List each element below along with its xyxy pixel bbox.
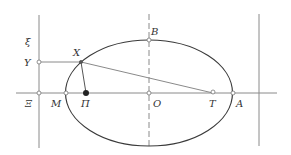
label-Pi: Π — [80, 98, 90, 109]
point-T — [211, 90, 215, 94]
label-X: Χ — [72, 47, 81, 58]
segment-XPi — [81, 62, 86, 93]
label-Xi: Ξ — [24, 98, 33, 109]
label-Y: Υ — [24, 57, 32, 68]
label-M: Μ — [50, 98, 62, 109]
point-Pi — [83, 90, 89, 96]
label-B: Β — [150, 26, 158, 37]
label-A: Α — [235, 98, 243, 109]
segment-XT — [81, 62, 213, 93]
label-T: Τ — [209, 98, 217, 109]
point-A — [231, 91, 235, 95]
point-O — [147, 91, 151, 95]
point-X — [79, 60, 82, 63]
point-Y — [37, 60, 41, 64]
label-xi: ξ — [25, 36, 31, 47]
point-Xi — [37, 91, 41, 95]
point-B — [147, 38, 151, 42]
label-O: Ο — [153, 98, 161, 109]
ellipse-diagram: ξ Υ Χ Β Ξ Μ Π Ο Τ Α — [0, 0, 291, 155]
point-M — [64, 91, 68, 95]
